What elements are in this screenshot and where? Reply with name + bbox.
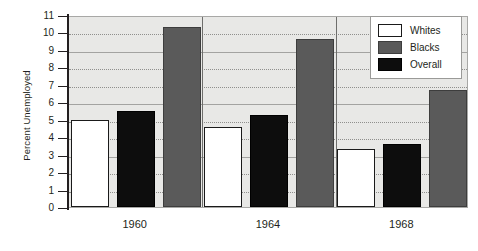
y-tick-label: 8 [14, 63, 54, 73]
y-tick [58, 191, 68, 192]
y-tick [58, 68, 68, 69]
y-tick [58, 138, 68, 139]
legend: Whites Blacks Overall [370, 16, 462, 79]
bar-whites-1968 [337, 149, 375, 207]
y-tick [58, 208, 68, 209]
y-tick-label: 10 [14, 28, 54, 38]
y-tick-label: 0 [14, 203, 54, 213]
legend-label-overall: Overall [410, 59, 442, 70]
bar-overall-1964 [250, 115, 288, 208]
y-axis-line [67, 14, 69, 210]
unemployment-bar-chart: Percent Unemployed 01234567891011 196019… [0, 0, 478, 251]
legend-label-blacks: Blacks [410, 42, 439, 53]
y-tick [58, 103, 68, 104]
y-tick-label: 1 [14, 186, 54, 196]
bar-blacks-1960 [163, 27, 201, 207]
y-tick [58, 51, 68, 52]
legend-swatch-overall [378, 58, 402, 71]
y-tick [58, 156, 68, 157]
bar-overall-1968 [383, 144, 421, 207]
y-tick [58, 121, 68, 122]
y-tick-label: 4 [14, 133, 54, 143]
gridline [69, 104, 467, 105]
legend-item-blacks: Blacks [378, 39, 455, 56]
gridline [69, 87, 467, 88]
y-tick-label: 3 [14, 151, 54, 161]
x-axis-label-1964: 1964 [223, 218, 313, 230]
bar-whites-1960 [71, 120, 109, 207]
y-tick [58, 16, 68, 17]
y-tick-label: 11 [14, 11, 54, 21]
y-tick [58, 33, 68, 34]
legend-label-whites: Whites [410, 25, 441, 36]
y-tick [58, 86, 68, 87]
legend-swatch-blacks [378, 41, 402, 54]
bar-blacks-1964 [296, 39, 334, 207]
y-tick-label: 6 [14, 98, 54, 108]
y-tick [58, 173, 68, 174]
bar-whites-1964 [204, 127, 242, 207]
bar-overall-1960 [117, 111, 155, 207]
legend-item-overall: Overall [378, 56, 455, 73]
legend-swatch-whites [378, 24, 402, 37]
y-tick-label: 2 [14, 168, 54, 178]
bar-blacks-1968 [429, 90, 467, 207]
y-tick-label: 7 [14, 81, 54, 91]
y-tick-label: 9 [14, 46, 54, 56]
x-axis-label-1960: 1960 [90, 218, 180, 230]
legend-item-whites: Whites [378, 22, 455, 39]
y-tick-label: 5 [14, 116, 54, 126]
x-axis-label-1968: 1968 [356, 218, 446, 230]
